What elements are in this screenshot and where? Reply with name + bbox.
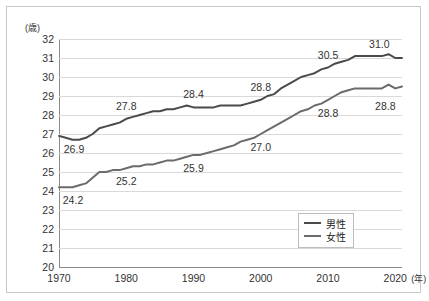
y-tick-23: 23 [32, 204, 54, 216]
y-tick-31: 31 [32, 52, 54, 64]
legend-label: 女性 [326, 229, 346, 244]
data-label-male-2000: 28.8 [251, 81, 271, 93]
data-label-male-1970: 26.9 [64, 143, 84, 155]
legend-swatch-icon [304, 222, 321, 224]
data-label-male-1980: 27.8 [116, 100, 136, 112]
data-label-female-1970: 24.2 [63, 194, 83, 206]
x-tick-1970: 1970 [47, 272, 70, 284]
y-tick-26: 26 [32, 147, 54, 159]
gridline-20 [59, 267, 402, 268]
x-tick-2020: 2020 [384, 272, 407, 284]
x-tick-1990: 1990 [182, 272, 205, 284]
data-label-female-2010: 28.8 [318, 107, 338, 119]
y-tick-24: 24 [32, 185, 54, 197]
line-series-女性 [59, 85, 402, 188]
x-tick-2000: 2000 [249, 272, 272, 284]
data-label-male-2010: 30.5 [318, 49, 338, 61]
y-tick-25: 25 [32, 166, 54, 178]
line-series-男性 [59, 54, 402, 140]
y-tick-27: 27 [32, 128, 54, 140]
x-tick-1980: 1980 [115, 272, 138, 284]
y-tick-28: 28 [32, 109, 54, 121]
chart-frame: (歳) 32313029282726252423222120 197019801… [6, 6, 421, 293]
x-axis-unit-label: (年) [411, 272, 426, 285]
y-tick-32: 32 [32, 33, 54, 45]
x-tick-2010: 2010 [316, 272, 339, 284]
data-label-female-2000: 27.0 [251, 141, 271, 153]
data-label-female-1990: 25.9 [183, 162, 203, 174]
data-label-male-2020: 31.0 [369, 38, 389, 50]
data-label-male-1990: 28.4 [183, 88, 203, 100]
legend-item-女性: 女性 [304, 230, 346, 243]
y-tick-21: 21 [32, 242, 54, 254]
y-tick-30: 30 [32, 71, 54, 83]
y-tick-29: 29 [32, 90, 54, 102]
y-tick-22: 22 [32, 223, 54, 235]
chart-legend: 男性女性 [298, 213, 354, 248]
data-label-female-1980: 25.2 [116, 175, 136, 187]
legend-swatch-icon [304, 235, 321, 237]
data-label-female-2020: 28.8 [375, 100, 395, 112]
plot-area: 32313029282726252423222120 1970198019902… [59, 39, 402, 267]
